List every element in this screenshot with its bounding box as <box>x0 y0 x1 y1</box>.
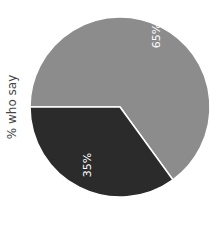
slice-label: 65% <box>150 24 163 48</box>
pie-chart: 65%35% <box>0 0 223 231</box>
slice-label: 35% <box>81 153 94 177</box>
